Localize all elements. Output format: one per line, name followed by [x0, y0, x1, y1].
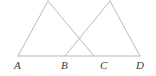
vertex-label-b: B [61, 60, 68, 71]
vertex-label-a: A [14, 60, 21, 71]
geometry-figure: A B C D [0, 0, 156, 76]
vertex-label-d: D [136, 60, 144, 71]
segment-side-AP [18, 1, 48, 56]
vertex-label-c: C [100, 60, 107, 71]
segment-side-QD [110, 1, 140, 56]
figure-canvas [0, 0, 156, 76]
segments-group [18, 1, 140, 56]
